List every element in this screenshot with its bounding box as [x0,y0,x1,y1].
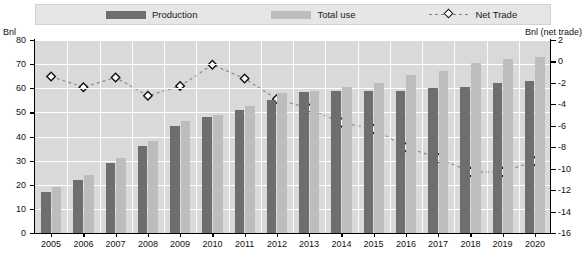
bar-total-use [374,83,384,233]
gridline-vertical [164,40,165,233]
bar-total-use [116,158,126,233]
x-axis-tick [277,233,278,237]
y-axis-right-tick [551,233,556,234]
y-axis-right-tick-label: -2 [558,78,584,88]
bar-production [202,117,212,233]
y-axis-left-tick [30,88,35,89]
y-axis-right-tick [551,40,556,41]
legend-item-net-trade: Net Trade [429,9,517,20]
chart-legend: Production Total use Net Trade [35,4,551,25]
y-axis-left-tick-label: 0 [2,228,26,238]
y-axis-left-tick [30,40,35,41]
bar-production [138,146,148,233]
y-axis-left-tick [30,112,35,113]
y-axis-right-tick-label: -4 [558,99,584,109]
bar-production [299,92,309,233]
gridline-vertical [293,40,294,233]
x-axis-tick [116,233,117,237]
x-axis-tick [83,233,84,237]
y-axis-left-tick-label: 50 [2,107,26,117]
bar-total-use [277,93,287,233]
y-axis-right-tick-label: 0 [558,56,584,66]
bar-total-use [535,57,545,233]
bar-swatch-icon [271,11,311,19]
x-axis-tick [51,233,52,237]
gridline-vertical [261,40,262,233]
bar-production [73,180,83,233]
legend-label-production: Production [152,9,197,20]
gridline-vertical [454,40,455,233]
plot-area: 2005 Net Trade: -1.42006 Net Trade: -2.4… [35,40,551,233]
y-axis-left-tick [30,185,35,186]
bar-total-use [406,75,416,233]
gridline-vertical [358,40,359,233]
y-axis-right-tick-label: -8 [558,142,584,152]
y-axis-left-tick [30,233,35,234]
gridline-vertical [100,40,101,233]
y-axis-right-tick [551,147,556,148]
y-axis-right-tick [551,83,556,84]
bar-production [106,163,116,233]
x-axis-tick [180,233,181,237]
net-trade-marker: 2006 Net Trade: -2.4 [79,83,87,91]
x-axis-tick [374,233,375,237]
bar-production [428,88,438,233]
net-trade-marker: 2008 Net Trade: -3.2 [144,92,152,100]
x-axis-tick [438,233,439,237]
y-axis-right-tick-label: -12 [558,185,584,195]
y-axis-left-tick [30,64,35,65]
y-axis-right-tick-label: -10 [558,164,584,174]
diamond-marker-icon [429,10,469,19]
bar-production [267,100,277,233]
bar-total-use [342,87,352,233]
gridline-vertical [422,40,423,233]
y-axis-left-tick-label: 20 [2,180,26,190]
y-axis-right-tick [551,104,556,105]
bar-production [170,126,180,233]
y-axis-left-tick-label: 10 [2,204,26,214]
y-axis-left-tick [30,161,35,162]
y-axis-left-tick-label: 40 [2,132,26,142]
y-axis-right-line [550,39,551,234]
gridline-vertical [196,40,197,233]
bar-production [460,87,470,233]
y-axis-left-tick-label: 60 [2,83,26,93]
bar-production [41,192,51,233]
bar-total-use [471,63,481,233]
legend-item-production: Production [106,9,197,20]
gridline-vertical [519,40,520,233]
y-axis-right-tick [551,169,556,170]
gridline-vertical [67,40,68,233]
y-axis-right-tick [551,126,556,127]
y-axis-right-tick [551,61,556,62]
bar-production [364,91,374,233]
bar-total-use [84,175,94,233]
bar-total-use [52,187,62,233]
bar-total-use [213,115,223,233]
y-axis-right-tick-label: -16 [558,228,584,238]
bar-total-use [148,141,158,233]
x-axis-tick [212,233,213,237]
x-axis-tick-label: 2020 [515,239,555,249]
net-trade-marker: 2007 Net Trade: -1.5 [111,73,119,81]
legend-item-total-use: Total use [271,9,355,20]
bar-production [493,83,503,233]
y-axis-right-tick-label: 2 [558,35,584,45]
x-axis-tick [503,233,504,237]
gridline-vertical [390,40,391,233]
bar-total-use [503,59,513,233]
legend-label-total-use: Total use [317,9,355,20]
x-axis-tick [148,233,149,237]
net-trade-marker: 2011 Net Trade: -1.6 [240,74,248,82]
y-axis-right-tick [551,190,556,191]
gridline-vertical [229,40,230,233]
bar-total-use [245,106,255,233]
y-axis-left-tick-label: 30 [2,156,26,166]
y-axis-left-tick [30,209,35,210]
bar-swatch-icon [106,11,146,19]
y-axis-left-tick-label: 70 [2,59,26,69]
bar-total-use [310,91,320,233]
bar-total-use [439,71,449,233]
x-axis-line [34,233,551,234]
bar-total-use [181,121,191,233]
